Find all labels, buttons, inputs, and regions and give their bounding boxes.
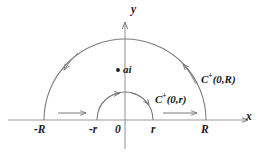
outer-arc-arrow-left (64, 53, 78, 70)
y-axis-label: y (131, 4, 136, 16)
inner-arc-arrow-left (99, 93, 120, 108)
tick-label-origin: 0 (115, 124, 121, 136)
outer-arc-arrow-right (183, 64, 196, 84)
pole-marker-dot (116, 68, 120, 72)
tick-label-minus-R: -R (34, 124, 46, 136)
outer-arc-label-args: (0,R) (213, 73, 236, 85)
contour-diagram: x y -R -r 0 r R ai C+(0,R) C+(0,r) (0, 0, 263, 152)
tick-label-r: r (151, 124, 155, 136)
tick-label-R: R (201, 124, 209, 136)
inner-arc-label: C+(0,r) (155, 92, 186, 105)
x-axis-label: x (246, 111, 252, 123)
inner-arc-arrow-right (131, 93, 149, 105)
pole-label-ai: ai (123, 64, 132, 75)
inner-arc-label-args: (0,r) (167, 93, 187, 105)
tick-label-minus-r: -r (89, 124, 97, 136)
outer-arc-label: C+(0,R) (201, 72, 236, 85)
